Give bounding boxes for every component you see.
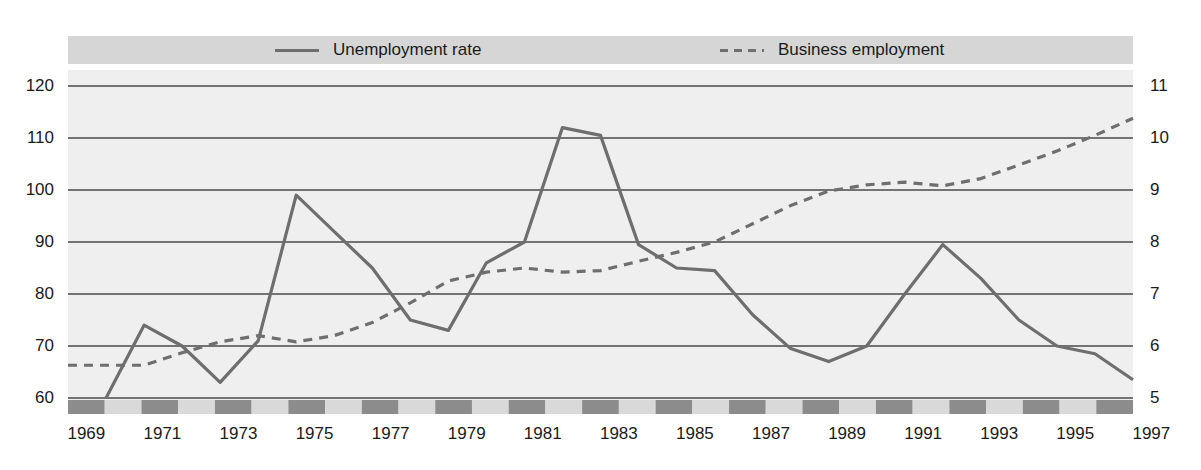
x-axis-tick-1991: 1991 <box>893 424 953 444</box>
x-axis-tick-1985: 1985 <box>665 424 725 444</box>
x-axis-tick-1977: 1977 <box>361 424 421 444</box>
x-axis-tick-1987: 1987 <box>741 424 801 444</box>
right-axis-tick-9: 9 <box>1150 180 1180 200</box>
x-axis-tick-1979: 1979 <box>437 424 497 444</box>
plot-canvas <box>0 0 1201 470</box>
right-axis-tick-6: 6 <box>1150 336 1180 356</box>
left-axis-tick-60: 60 <box>8 388 54 408</box>
chart-figure: Unemployment rate Business employment 60… <box>0 0 1201 470</box>
right-axis-tick-10: 10 <box>1150 128 1180 148</box>
x-axis-tick-1969: 1969 <box>56 424 116 444</box>
right-axis-tick-8: 8 <box>1150 232 1180 252</box>
left-axis-tick-90: 90 <box>8 232 54 252</box>
x-axis-tick-1971: 1971 <box>132 424 192 444</box>
x-axis-tick-1983: 1983 <box>589 424 649 444</box>
x-axis-tick-1989: 1989 <box>817 424 877 444</box>
right-axis-tick-5: 5 <box>1150 388 1180 408</box>
x-axis-tick-1981: 1981 <box>513 424 573 444</box>
x-axis-tick-1993: 1993 <box>969 424 1029 444</box>
x-axis-tick-1975: 1975 <box>285 424 345 444</box>
right-axis-tick-11: 11 <box>1150 76 1180 96</box>
x-axis-tick-1973: 1973 <box>209 424 269 444</box>
right-axis-tick-7: 7 <box>1150 284 1180 304</box>
x-axis-tick-1995: 1995 <box>1045 424 1105 444</box>
left-axis-tick-100: 100 <box>8 180 54 200</box>
left-axis-tick-80: 80 <box>8 284 54 304</box>
left-axis-tick-110: 110 <box>8 128 54 148</box>
left-axis-tick-70: 70 <box>8 336 54 356</box>
x-axis-tick-1997: 1997 <box>1121 424 1181 444</box>
left-axis-tick-120: 120 <box>8 76 54 96</box>
